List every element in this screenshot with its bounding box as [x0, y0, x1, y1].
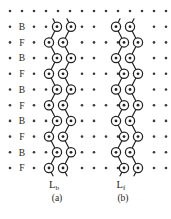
background-dot: [105, 167, 108, 170]
background-dot: [81, 167, 84, 170]
row-label: F: [19, 132, 24, 142]
background-dot: [9, 88, 12, 91]
background-dot: [21, 10, 24, 13]
lattice-site-center-dot: [62, 104, 65, 107]
background-dot: [93, 73, 96, 76]
lattice-site-center-dot: [123, 41, 126, 44]
background-dot: [45, 88, 48, 91]
background-dot: [93, 104, 96, 107]
lattice-site-center-dot: [137, 72, 140, 75]
background-dot: [153, 10, 156, 13]
background-dot: [165, 151, 168, 154]
background-dot: [33, 104, 36, 107]
background-dot: [165, 120, 168, 123]
background-dot: [93, 25, 96, 28]
background-dot: [81, 151, 84, 154]
lattice-site-center-dot: [129, 88, 132, 91]
lattice-site-center-dot: [48, 167, 51, 170]
background-dot: [9, 151, 12, 154]
background-dot: [129, 10, 132, 13]
background-dot: [81, 120, 84, 123]
background-dot: [33, 120, 36, 123]
lattice-site-center-dot: [123, 167, 126, 170]
background-dot: [9, 120, 12, 123]
background-dot: [165, 57, 168, 60]
background-dot: [153, 104, 156, 107]
lattice-site-center-dot: [70, 25, 73, 28]
background-dot: [45, 151, 48, 154]
background-dot: [33, 135, 36, 138]
lattice-site-center-dot: [56, 57, 59, 60]
lattice-site-center-dot: [62, 72, 65, 75]
background-dot: [57, 10, 60, 13]
background-dot: [81, 104, 84, 107]
background-dot: [9, 135, 12, 138]
background-dot: [9, 73, 12, 76]
lattice-site-center-dot: [70, 88, 73, 91]
background-dot: [153, 167, 156, 170]
lattice-site-center-dot: [129, 25, 132, 28]
lattice-site-center-dot: [137, 41, 140, 44]
background-dot: [45, 25, 48, 28]
background-dot: [33, 167, 36, 170]
ladder-label: Lb: [49, 179, 59, 192]
background-dot: [81, 73, 84, 76]
row-label: B: [19, 53, 25, 63]
background-dot: [81, 41, 84, 44]
background-dot: [153, 57, 156, 60]
lattice-site-center-dot: [137, 167, 140, 170]
background-dot: [153, 73, 156, 76]
background-dot: [153, 151, 156, 154]
background-dot: [9, 167, 12, 170]
background-dot: [105, 10, 108, 13]
lattice-site-center-dot: [48, 104, 51, 107]
ladder-caption: (a): [52, 193, 63, 204]
background-dot: [165, 73, 168, 76]
background-dot: [81, 10, 84, 13]
lattice-figure: BFBFBFBFBFLb(a)Lf(b): [0, 0, 171, 219]
background-dot: [165, 167, 168, 170]
row-label: B: [19, 116, 25, 126]
lattice-site-center-dot: [56, 120, 59, 123]
background-dot: [141, 10, 144, 13]
background-dot: [165, 41, 168, 44]
background-dot: [165, 104, 168, 107]
background-dot: [153, 120, 156, 123]
background-dot: [9, 25, 12, 28]
background-dot: [9, 10, 12, 13]
row-label: F: [19, 163, 24, 173]
background-dot: [81, 25, 84, 28]
background-dot: [93, 88, 96, 91]
background-dot: [9, 57, 12, 60]
background-dot: [93, 10, 96, 13]
background-dot: [81, 135, 84, 138]
background-dot: [33, 25, 36, 28]
background-dot: [93, 135, 96, 138]
lattice-site-center-dot: [123, 135, 126, 138]
background-dot: [33, 88, 36, 91]
row-label: B: [19, 148, 25, 158]
background-dot: [93, 120, 96, 123]
lattice-site-center-dot: [62, 135, 65, 138]
background-dot: [93, 41, 96, 44]
lattice-site-center-dot: [56, 151, 59, 154]
lattice-site-center-dot: [48, 135, 51, 138]
background-dot: [33, 151, 36, 154]
lattice-site-center-dot: [62, 167, 65, 170]
row-label: F: [19, 101, 24, 111]
background-dot: [33, 57, 36, 60]
background-dot: [93, 167, 96, 170]
background-dot: [165, 25, 168, 28]
lattice-site-center-dot: [115, 151, 118, 154]
background-dot: [45, 120, 48, 123]
background-dot: [165, 135, 168, 138]
lattice-site-center-dot: [48, 41, 51, 44]
lattice-site-center-dot: [70, 151, 73, 154]
row-label: F: [19, 69, 24, 79]
background-dot: [33, 10, 36, 13]
lattice-site-center-dot: [137, 135, 140, 138]
lattice-site-center-dot: [123, 104, 126, 107]
lattice-site-center-dot: [56, 25, 59, 28]
background-dot: [153, 41, 156, 44]
background-dot: [45, 57, 48, 60]
